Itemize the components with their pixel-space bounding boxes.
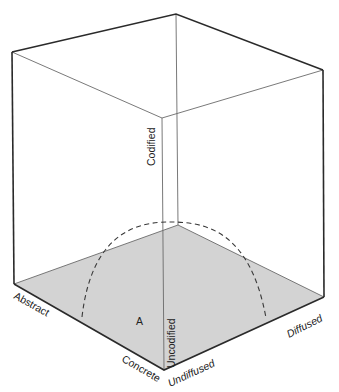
label-codified: Codified [145, 127, 157, 166]
edge-right-vertical [323, 70, 324, 297]
edge-top-front-to-top-right [162, 70, 323, 118]
region-label-a: A [136, 315, 143, 327]
edge-top-silhouette [12, 14, 323, 70]
label-uncodified: Uncodified [165, 318, 177, 368]
edge-left-vertical [12, 52, 14, 284]
edge-back-vertical [176, 14, 178, 225]
edge-top-left-to-top-front [12, 52, 162, 118]
cube-diagram: Codified Uncodified Abstract Concrete Un… [0, 0, 339, 392]
label-diffused: Diffused [284, 311, 325, 340]
